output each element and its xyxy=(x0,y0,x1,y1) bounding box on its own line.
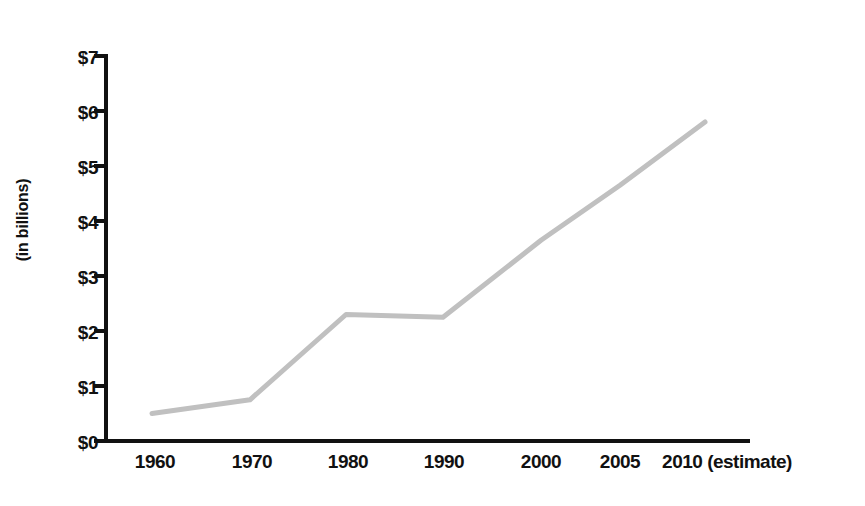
x-tick-label-1970: 1970 xyxy=(232,452,272,471)
plot-area xyxy=(0,0,865,506)
x-tick-label-1990: 1990 xyxy=(424,452,464,471)
line-chart: (in billions) $7 $6 $5 $4 $3 $2 $1 $0 xyxy=(0,0,865,506)
x-tick-label-2000: 2000 xyxy=(521,452,561,471)
data-series-line xyxy=(152,122,705,414)
x-axis-tick-labels: 1960 1970 1980 1990 2000 2005 2010 (esti… xyxy=(0,452,865,486)
x-tick-label-2010: 2010 (estimate) xyxy=(662,452,792,471)
x-tick-label-1980: 1980 xyxy=(328,452,368,471)
x-tick-label-1960: 1960 xyxy=(135,452,175,471)
x-tick-label-2005: 2005 xyxy=(600,452,640,471)
